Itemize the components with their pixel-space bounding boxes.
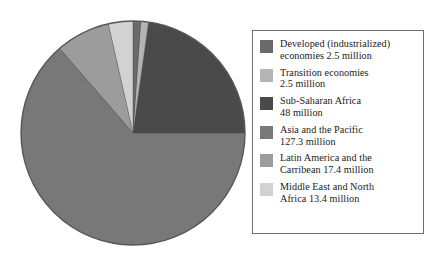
- swatch-latin-america-carribean: [260, 154, 273, 167]
- legend-label-latin-america-carribean: Latin America and the Carribean 17.4 mil…: [280, 152, 374, 176]
- swatch-asia-and-the-pacific: [260, 126, 273, 139]
- legend-line-1: Sub-Saharan Africa: [280, 95, 361, 106]
- legend-line-2: 2.5 million: [280, 78, 325, 89]
- legend-line-2: economies 2.5 million: [280, 50, 372, 61]
- swatch-sub-saharan-africa: [260, 97, 273, 110]
- legend-line-2: Africa 13.4 million: [280, 193, 359, 204]
- legend-item-latin-america-carribean: Latin America and the Carribean 17.4 mil…: [260, 152, 417, 176]
- legend-line-1: Transition economies: [280, 67, 369, 78]
- legend-item-transition-economies: Transition economies 2.5 million: [260, 67, 417, 91]
- pie-chart-figure: Developed (industrialized) economies 2.5…: [0, 0, 436, 258]
- legend-label-asia-and-the-pacific: Asia and the Pacific 127.3 million: [280, 124, 363, 148]
- legend-item-middle-east-north-africa: Middle East and North Africa 13.4 millio…: [260, 181, 417, 205]
- swatch-developed-economies: [260, 40, 273, 53]
- pie-chart-svg: [18, 18, 250, 250]
- legend-item-sub-saharan-africa: Sub-Saharan Africa 48 million: [260, 95, 417, 119]
- legend-item-developed-economies: Developed (industrialized) economies 2.5…: [260, 38, 417, 62]
- pie-chart-globe: [18, 18, 250, 250]
- legend-label-transition-economies: Transition economies 2.5 million: [280, 67, 369, 91]
- legend-line-2: 127.3 million: [280, 136, 336, 147]
- legend-line-1: Asia and the Pacific: [280, 124, 363, 135]
- legend-item-asia-and-the-pacific: Asia and the Pacific 127.3 million: [260, 124, 417, 148]
- legend-label-middle-east-north-africa: Middle East and North Africa 13.4 millio…: [280, 181, 374, 205]
- legend-line-2: 48 million: [280, 107, 323, 118]
- legend-line-1: Latin America and the: [280, 152, 372, 163]
- legend-line-1: Developed (industrialized): [280, 38, 390, 49]
- legend-label-developed-economies: Developed (industrialized) economies 2.5…: [280, 38, 390, 62]
- legend-label-sub-saharan-africa: Sub-Saharan Africa 48 million: [280, 95, 361, 119]
- swatch-middle-east-north-africa: [260, 183, 273, 196]
- legend-line-1: Middle East and North: [280, 181, 374, 192]
- chart-legend: Developed (industrialized) economies 2.5…: [252, 30, 424, 234]
- legend-line-2: Carribean 17.4 million: [280, 164, 374, 175]
- pie-slice-sub-saharan-africa: [133, 22, 245, 133]
- swatch-transition-economies: [260, 69, 273, 82]
